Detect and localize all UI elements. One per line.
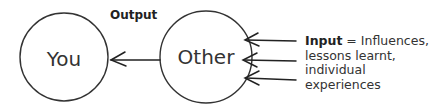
input-term: Input xyxy=(305,33,342,48)
input-arrow-3 xyxy=(246,78,296,80)
input-line-2: lessons learnt, xyxy=(305,48,396,63)
input-line-3: individual xyxy=(305,62,366,77)
you-node-label: You xyxy=(47,47,81,71)
input-description: Input = Influences, lessons learnt, indi… xyxy=(305,34,430,92)
input-arrow-2 xyxy=(244,60,296,61)
input-line-4: experiences xyxy=(305,77,381,92)
input-arrows xyxy=(243,33,296,85)
input-equals: = xyxy=(342,33,360,48)
input-arrow-1 xyxy=(246,40,296,41)
output-arrow xyxy=(111,52,160,66)
other-node-label: Other xyxy=(178,45,235,69)
output-label: Output xyxy=(110,8,157,22)
input-line-1: Influences, xyxy=(361,33,429,48)
